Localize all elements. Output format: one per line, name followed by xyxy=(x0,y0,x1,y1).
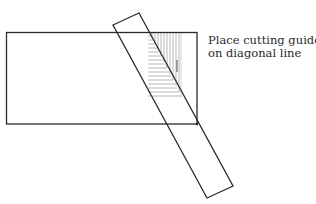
instruction-caption: Place cutting guide on diagonal line xyxy=(208,34,316,60)
corner-point xyxy=(196,123,198,125)
hatched-cut-zone xyxy=(148,32,181,98)
caption-line-2: on diagonal line xyxy=(208,47,316,60)
panel-rectangle xyxy=(7,33,198,125)
cutting-diagram xyxy=(0,0,316,204)
